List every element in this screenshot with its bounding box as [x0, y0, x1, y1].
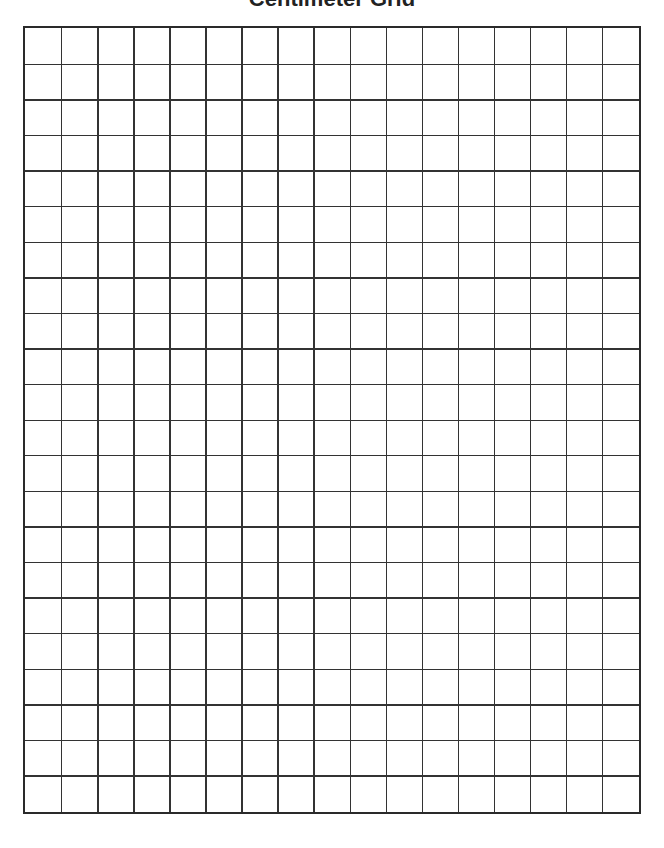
page-title: Centimeter Grid: [0, 0, 664, 12]
grid-row-line: [25, 597, 639, 598]
grid-row-line: [25, 135, 639, 136]
grid-row-line: [25, 491, 639, 492]
grid-row-line: [25, 170, 639, 171]
grid-row-line: [25, 242, 639, 243]
grid-row-line: [25, 740, 639, 741]
grid-row-line: [25, 455, 639, 456]
centimeter-grid: [23, 26, 641, 814]
grid-row-line: [25, 633, 639, 634]
grid-row-line: [25, 64, 639, 65]
grid-row-line: [25, 99, 639, 100]
grid-row-line: [25, 348, 639, 349]
grid-row-line: [25, 206, 639, 207]
grid-row-line: [25, 313, 639, 314]
grid-row-line: [25, 775, 639, 776]
grid-row-line: [25, 277, 639, 278]
grid-row-line: [25, 526, 639, 527]
grid-row-line: [25, 562, 639, 563]
grid-row-line: [25, 384, 639, 385]
grid-row-line: [25, 669, 639, 670]
grid-row-line: [25, 704, 639, 705]
grid-row-line: [25, 420, 639, 421]
